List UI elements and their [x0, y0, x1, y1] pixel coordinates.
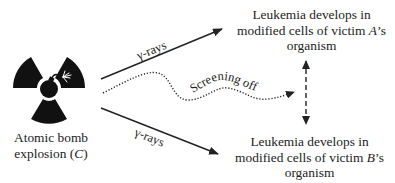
- bomb-body: [40, 80, 58, 98]
- effect-victim-b: Leukemia develops in modified cells of v…: [226, 134, 393, 181]
- effect-a-line1: Leukemia develops in: [228, 7, 395, 23]
- effect-b-line2: modified cells of victim B’s: [226, 150, 393, 166]
- source-label-line1: Atomic bomb: [4, 130, 98, 146]
- trefoil-blade-top-right: [55, 57, 85, 88]
- effect-b-line1: Leukemia develops in: [226, 134, 393, 150]
- effect-a-line2: modified cells of victim A’s: [228, 23, 395, 39]
- effect-b-line3: organism: [226, 165, 393, 181]
- effect-victim-a: Leukemia develops in modified cells of v…: [228, 7, 395, 54]
- trefoil-blade-top-left: [13, 57, 43, 88]
- trefoil-blade-bottom: [31, 99, 67, 124]
- gamma-ray-arrow-a: [101, 29, 222, 79]
- gamma-ray-label-b: γ-rays: [132, 125, 167, 150]
- source-label-line2: explosion (C): [4, 146, 98, 162]
- effect-a-line3: organism: [228, 38, 395, 54]
- causal-diagram: γ-rays γ-rays Screening off Atomic bomb …: [0, 0, 395, 183]
- gamma-ray-label-a: γ-rays: [134, 38, 169, 63]
- source-label: Atomic bomb explosion (C): [4, 130, 98, 161]
- screening-off-label: Screening off: [187, 69, 260, 96]
- radiation-bomb-icon: [13, 57, 85, 124]
